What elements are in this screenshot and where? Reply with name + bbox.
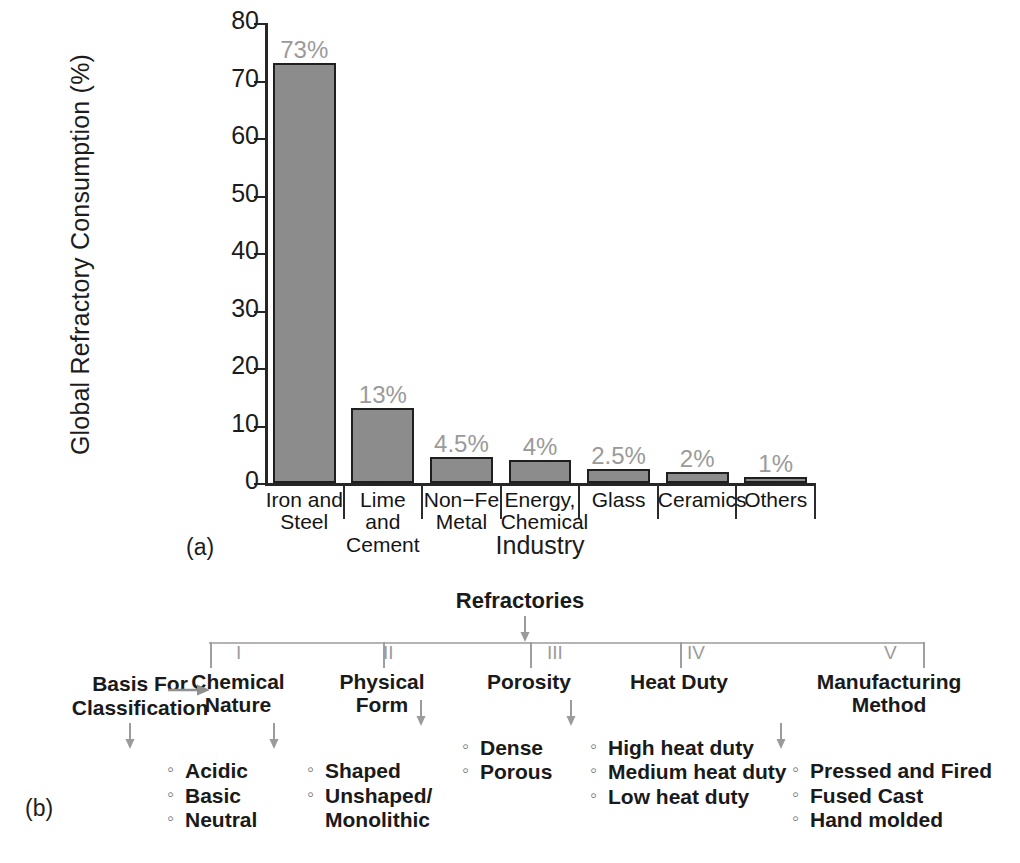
tree-root-label: Refractories [390, 588, 650, 614]
x-axis-category-label: Non−Fe Metal [422, 489, 501, 534]
bar: 2% [666, 472, 729, 484]
panel-a-caption: (a) [186, 534, 214, 561]
down-arrow-icon [774, 723, 788, 749]
x-axis-category-label: Iron and Steel [265, 489, 344, 534]
tree-branch-numeral: III [547, 643, 563, 662]
tree-column-list: High heat dutyMedium heat dutyLow heat d… [564, 736, 794, 809]
tree-connector-bar [209, 642, 925, 644]
down-arrow-icon [564, 700, 578, 726]
bar-chart-panel: Global Refractory Consumption (%) 010203… [0, 0, 1020, 580]
classification-tree-panel: Refractories IIIIIIIVV Chemical NatureAc… [0, 580, 1020, 863]
tree-column: Manufacturing MethodPressed and FiredFus… [774, 670, 1004, 832]
bar: 1% [744, 477, 807, 483]
tree-branch-numeral: I [236, 643, 241, 662]
x-axis-category-label: Glass [579, 489, 658, 511]
list-item: High heat duty [590, 736, 794, 760]
bar: 4.5% [430, 457, 493, 483]
bar-value-label: 2% [680, 447, 715, 471]
tree-branch-stub [210, 642, 212, 668]
x-axis-title: Industry [265, 531, 815, 560]
list-item: Low heat duty [590, 785, 794, 809]
bar-value-label: 13% [359, 383, 407, 407]
list-item: Unshaped/ Monolithic [307, 784, 497, 833]
bar-value-label: 2.5% [591, 444, 646, 468]
x-axis-category-label: Others [736, 489, 815, 511]
bar: 2.5% [587, 469, 650, 483]
down-arrow-icon [123, 723, 137, 749]
tree-branch-numeral: IV [687, 643, 705, 662]
y-axis-tick-label: 20 [231, 353, 259, 378]
tree-column-list: Pressed and FiredFused CastHand molded [774, 759, 1004, 832]
x-axis-line [265, 483, 815, 486]
y-axis-tick-label: 30 [231, 296, 259, 321]
bar: 4% [509, 460, 572, 483]
bar: 73% [273, 63, 336, 483]
tree-column: Heat DutyHigh heat dutyMedium heat dutyL… [564, 670, 794, 809]
y-axis-title: Global Refractory Consumption (%) [66, 25, 95, 485]
tree-branch-stub [923, 642, 925, 668]
y-axis-line [265, 23, 268, 484]
tree-branch-numeral: V [884, 643, 897, 662]
y-axis-tick-label: 70 [231, 66, 259, 91]
down-arrow-icon [414, 700, 428, 726]
y-axis-tick-label: 60 [231, 123, 259, 148]
plot-area: 01020304050607080 73%13%4.5%4%2.5%2%1% I… [265, 23, 815, 483]
y-axis-tick-label: 40 [231, 238, 259, 263]
tree-branch-stub [530, 642, 532, 668]
x-axis-category-label: Ceramics [658, 489, 737, 511]
y-axis-tick-label: 80 [231, 8, 259, 33]
bar: 13% [351, 408, 414, 483]
down-arrow-icon [518, 616, 532, 642]
y-axis-tick-label: 0 [245, 468, 259, 493]
tree-branch-stub [680, 642, 682, 668]
down-arrow-icon [267, 723, 281, 749]
list-item: Hand molded [792, 808, 1004, 832]
panel-b-caption: (b) [25, 795, 53, 822]
right-arrow-icon [168, 681, 210, 699]
y-axis-tick-label: 50 [231, 181, 259, 206]
y-axis-tick-label: 10 [231, 411, 259, 436]
list-item: Pressed and Fired [792, 759, 1004, 783]
x-axis-category-label: Energy, Chemical [501, 489, 580, 534]
list-item: Medium heat duty [590, 760, 794, 784]
tree-column-heading: Heat Duty [564, 670, 794, 693]
list-item: Fused Cast [792, 784, 1004, 808]
bar-value-label: 4.5% [434, 432, 489, 456]
tree-branch-numeral: II [383, 643, 394, 662]
bar-value-label: 1% [758, 452, 793, 476]
tree-column-heading: Manufacturing Method [774, 670, 1004, 716]
bar-value-label: 4% [523, 435, 558, 459]
bar-value-label: 73% [280, 38, 328, 62]
